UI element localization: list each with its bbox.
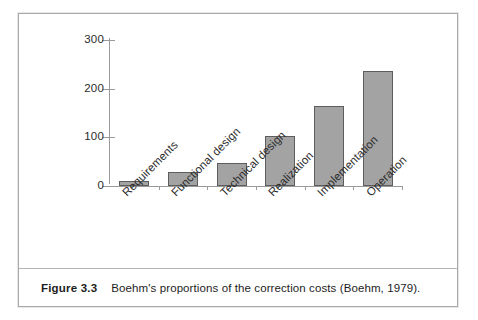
figure-caption: Figure 3.3Boehm's proportions of the cor…	[41, 282, 443, 294]
figure-panel: 0100200300 RequirementsFunctional design…	[18, 13, 458, 307]
caption-divider	[19, 268, 457, 269]
y-tick-label: 0	[97, 179, 104, 191]
y-tick-label: 200	[84, 82, 104, 94]
chart-area: 0100200300 RequirementsFunctional design…	[19, 14, 457, 266]
x-axis-category-labels: RequirementsFunctional designTechnical d…	[109, 190, 409, 266]
caption-text: Boehm's proportions of the correction co…	[111, 282, 420, 294]
y-tick-label: 300	[84, 33, 104, 45]
caption-label: Figure 3.3	[41, 282, 97, 294]
y-tick-label: 100	[84, 130, 104, 142]
